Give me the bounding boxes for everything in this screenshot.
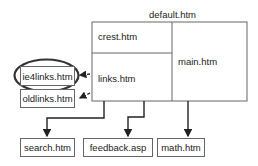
frameset-title: default.htm	[149, 9, 196, 20]
feedback-label: feedback.asp	[90, 142, 147, 153]
oldlinks-label: oldlinks.htm	[22, 93, 72, 104]
math-label: math.htm	[161, 142, 201, 153]
arrow-to-oldlinks	[80, 93, 90, 98]
ie4links-box: ie4links.htm	[20, 66, 75, 86]
frame-main-label: main.htm	[178, 56, 217, 67]
frame-links-label: links.htm	[98, 73, 135, 84]
frame-crest-label: crest.htm	[98, 31, 137, 42]
feedback-box: feedback.asp	[83, 138, 153, 157]
oldlinks-box: oldlinks.htm	[20, 89, 75, 108]
search-label: search.htm	[24, 142, 71, 153]
arrow-to-feedback	[128, 101, 144, 136]
ie4links-label: ie4links.htm	[22, 71, 72, 82]
math-box: math.htm	[157, 138, 205, 157]
arrow-to-ie4links	[80, 74, 90, 75]
search-box: search.htm	[20, 138, 75, 157]
